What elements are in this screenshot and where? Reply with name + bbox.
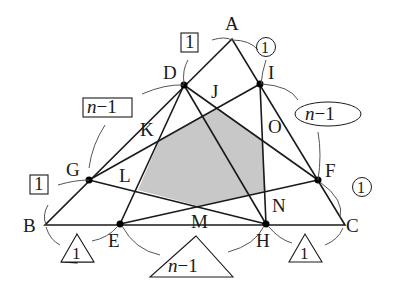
arc-i xyxy=(261,60,266,84)
label-m: M xyxy=(191,211,208,232)
label-d: D xyxy=(163,62,177,83)
arc-d-top xyxy=(184,60,189,84)
arc-ad xyxy=(212,38,232,40)
label-j: J xyxy=(211,81,218,102)
arc-dg-low xyxy=(89,125,105,168)
label-l: L xyxy=(119,165,131,186)
label-f: F xyxy=(325,160,336,181)
arc-hc xyxy=(268,226,292,243)
arc-eh xyxy=(122,226,160,255)
arc-be xyxy=(46,227,60,245)
label-b: B xyxy=(23,215,36,236)
ratio-ad: 1 xyxy=(185,31,195,52)
label-o: O xyxy=(268,116,282,137)
ratio-eh: n−1 xyxy=(168,255,198,276)
label-a: A xyxy=(225,13,239,34)
ratio-if: n−1 xyxy=(305,103,335,124)
label-n: N xyxy=(272,195,286,216)
arc-fc-low xyxy=(325,228,343,245)
label-h: H xyxy=(256,230,270,251)
label-k: K xyxy=(140,119,154,140)
ratio-hc: 1 xyxy=(300,244,309,263)
ratio-fc: 1 xyxy=(357,179,365,196)
triangle-diagram: A B C D E F G H I J K L M N O 1 n−1 1 1 … xyxy=(0,0,396,295)
ratio-ai: 1 xyxy=(261,39,269,56)
label-c: C xyxy=(346,215,359,236)
label-e: E xyxy=(108,230,120,251)
label-i: I xyxy=(268,62,274,83)
arc-gb xyxy=(58,180,89,185)
ratio-be: 1 xyxy=(72,244,81,263)
ratio-dg: n−1 xyxy=(87,96,117,117)
arc-if-low xyxy=(318,132,320,180)
label-g: G xyxy=(66,159,80,180)
ratio-gb: 1 xyxy=(34,173,44,194)
